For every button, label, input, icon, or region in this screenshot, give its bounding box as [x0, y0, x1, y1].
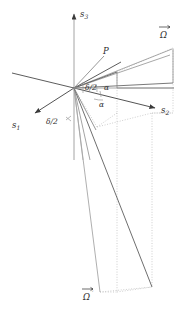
dotted-bottom-edge-c [100, 287, 152, 292]
upper-quad-edges [117, 49, 174, 88]
axis-s1-line [35, 88, 74, 113]
vector-label-P: P [102, 46, 109, 56]
vector-P-text: P [102, 46, 109, 56]
ray-down-omega-prime [74, 88, 100, 292]
ray-left-line [12, 73, 74, 88]
ray-fan-lower [74, 88, 152, 292]
figure-canvas: s3 s1 s2 P Ω Ω ′ δ/2 α α δ/2 [0, 0, 191, 310]
svg-text:s2: s2 [161, 105, 169, 116]
axis-s1 [35, 88, 74, 113]
vector-Omega-prime-text: Ω [82, 292, 90, 302]
vector-label-Omega-prime: Ω ′ [82, 287, 94, 302]
vector-Omega-arrow-accent [159, 25, 170, 28]
ray-left-horizontal [12, 73, 74, 88]
vector-Omega-text: Ω [159, 30, 167, 40]
ray-to-P-dark [74, 62, 121, 88]
vector-diagram-svg: s3 s1 s2 P Ω Ω ′ δ/2 α α δ/2 [0, 0, 191, 310]
angle-label-alpha-upper: α [104, 83, 109, 92]
axis-label-s1: s1 [12, 120, 20, 131]
dotted-base-bottom [97, 113, 152, 127]
angle-delta-left-text: δ/2 [46, 117, 58, 126]
angle-label-delta-over-2-upper: δ/2 [85, 83, 97, 92]
svg-text:s3: s3 [80, 9, 88, 20]
angle-delta-upper-text: δ/2 [85, 83, 97, 92]
ray-down-steep [74, 88, 96, 130]
angle-alpha-upper-text: α [104, 83, 109, 92]
vector-label-Omega: Ω [159, 25, 170, 40]
axis-s3-subscript: 3 [84, 13, 88, 20]
axis-label-s2: s2 [161, 105, 169, 116]
vector-Omega-prime-mark: ′ [92, 289, 94, 296]
angle-label-alpha-lower: α [99, 100, 104, 109]
svg-text:s1: s1 [12, 120, 20, 131]
axis-s2-subscript: 2 [164, 109, 169, 116]
dotted-base-mid [97, 113, 117, 127]
angle-alpha-lower-text: α [99, 100, 104, 109]
axis-s1-subscript: 1 [16, 124, 20, 131]
axis-label-s3: s3 [80, 9, 88, 20]
angle-label-delta-over-2-left: δ/2 [46, 117, 58, 126]
ray-down-long-b [74, 88, 152, 287]
vector-Omega-prime-arrow-accent [82, 287, 93, 290]
